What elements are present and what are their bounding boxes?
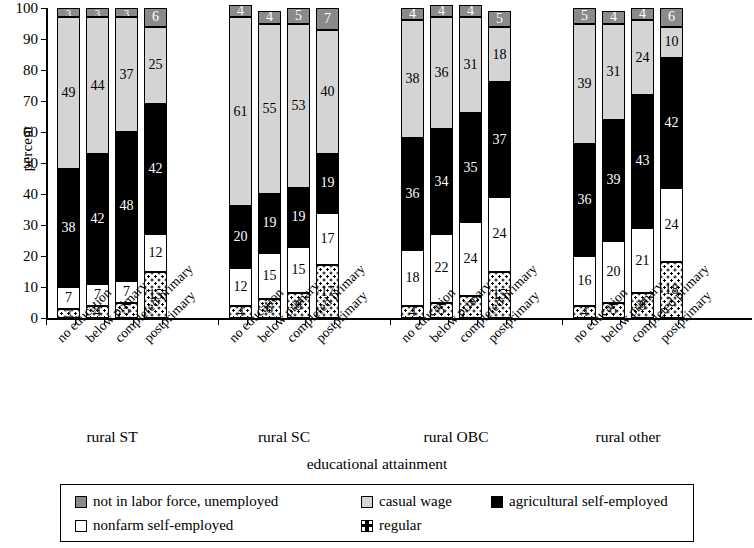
bar-segment-nilf[interactable]: 5 [488,11,511,27]
bar-segment-casual[interactable]: 10 [660,27,683,58]
bar-segment-casual[interactable]: 53 [287,24,310,188]
bar-segment-agri[interactable]: 36 [573,144,596,256]
bar-segment-nonfarm[interactable]: 7 [57,287,80,309]
bar-segment-nilf[interactable]: 4 [229,5,252,17]
bar-segment-agri[interactable]: 20 [229,206,252,268]
bar-segment-nilf[interactable]: 6 [660,8,683,27]
legend-item-casual[interactable]: casual wage [361,493,452,510]
legend-item-regular[interactable]: regular [361,517,421,534]
bar[interactable]: 3738493 [57,8,80,318]
bar-segment-casual[interactable]: 24 [631,20,654,94]
y-tick-label: 60 [4,127,38,137]
bar-segment-value: 3 [87,8,108,17]
bar-segment-casual[interactable]: 25 [144,27,167,105]
bar[interactable]: 81519535 [287,8,310,318]
bar-segment-nilf[interactable]: 7 [316,8,339,30]
bar-segment-agri[interactable]: 37 [488,82,511,197]
bar[interactable]: 41220614 [229,8,252,318]
bar-segment-value: 4 [259,11,280,23]
bar-segment-agri[interactable]: 43 [631,95,654,228]
bar-segment-value: 4 [230,5,251,17]
bar-segment-agri[interactable]: 38 [57,169,80,287]
y-tick-label: 30 [4,220,38,230]
bar-segment-value: 24 [489,227,510,241]
bar-segment-casual[interactable]: 44 [86,17,109,153]
bar-segment-value: 36 [402,187,423,201]
bar-segment-nonfarm[interactable]: 12 [144,234,167,271]
bar-segment-agri[interactable]: 34 [430,129,453,234]
bar[interactable]: 151242256 [144,8,167,318]
group-label: rural ST [42,428,182,446]
bar-segment-nilf[interactable]: 3 [115,8,138,17]
bar-segment-nilf[interactable]: 4 [631,8,654,20]
legend-item-label: agricultural self-employed [509,493,668,510]
bar[interactable]: 52039314 [602,8,625,318]
bar[interactable]: 82143244 [631,8,654,318]
bar-segment-nilf[interactable]: 3 [57,8,80,17]
bar-segment-casual[interactable]: 37 [115,17,138,132]
bar[interactable]: 182442106 [660,8,683,318]
legend-item-agri[interactable]: agricultural self-employed [491,493,668,510]
legend-item-nonfarm[interactable]: nonfarm self-employed [75,517,233,534]
bar-segment-value: 37 [489,133,510,147]
bar-segment-agri[interactable]: 19 [316,154,339,213]
bar-segment-casual[interactable]: 31 [602,24,625,120]
bar-segment-value: 38 [58,221,79,235]
bar-segment-agri[interactable]: 42 [86,154,109,284]
bar-segment-value: 5 [288,9,309,23]
bar-segment-nonfarm[interactable]: 12 [229,268,252,305]
bar-segment-nonfarm[interactable]: 16 [573,256,596,306]
bar-segment-nilf[interactable]: 5 [287,8,310,24]
bar-segment-nilf[interactable]: 4 [401,8,424,20]
bar-segment-agri[interactable]: 35 [459,113,482,222]
bar-segment-agri[interactable]: 42 [660,58,683,188]
bar-segment-nilf[interactable]: 4 [258,11,281,23]
bar-segment-casual[interactable]: 31 [459,17,482,113]
bar-segment-casual[interactable]: 40 [316,30,339,154]
bar-segment-casual[interactable]: 36 [430,17,453,129]
bar-segment-value: 5 [574,9,595,23]
bar-segment-agri[interactable]: 19 [287,188,310,247]
legend-item-nilf[interactable]: not in labor force, unemployed [75,493,278,510]
bar-segment-agri[interactable]: 19 [258,194,281,253]
bar-segment-agri[interactable]: 42 [144,104,167,234]
bar-segment-agri[interactable]: 36 [401,138,424,250]
bar-segment-nilf[interactable]: 4 [602,11,625,23]
bar-segment-casual[interactable]: 61 [229,17,252,206]
bar[interactable]: 41836384 [401,8,424,318]
bar-segment-casual[interactable]: 18 [488,27,511,83]
bar-segment-nilf[interactable]: 5 [573,8,596,24]
bar[interactable]: 72435314 [459,8,482,318]
bar-segment-nilf[interactable]: 6 [144,8,167,27]
bar-segment-casual[interactable]: 38 [401,20,424,138]
bar[interactable]: 61519554 [258,8,281,318]
bar-segment-casual[interactable]: 55 [258,24,281,195]
bar-segment-agri[interactable]: 48 [115,132,138,281]
bar-segment-nonfarm[interactable]: 24 [488,197,511,271]
bar-segment-value: 36 [431,66,452,80]
bar[interactable]: 152437185 [488,8,511,318]
x-tick-mark [390,319,391,325]
bar-segment-value: 16 [574,274,595,288]
bar-segment-nonfarm[interactable]: 24 [660,188,683,262]
bar[interactable]: 52234364 [430,8,453,318]
bar-segment-value: 40 [317,85,338,99]
bar-segment-value: 53 [288,99,309,113]
bar-segment-nonfarm[interactable]: 17 [316,213,339,266]
y-tick-label: 0 [4,313,38,323]
bar[interactable]: 5748373 [115,8,138,318]
bar-segment-nilf[interactable]: 3 [86,8,109,17]
bar-segment-value: 20 [230,230,251,244]
bar-segment-agri[interactable]: 39 [602,120,625,241]
bar[interactable]: 4742443 [86,8,109,318]
bar-segment-value: 6 [661,10,682,24]
bar[interactable]: 41636395 [573,8,596,318]
bar-segment-casual[interactable]: 39 [573,24,596,145]
bar-segment-nilf[interactable]: 4 [459,5,482,17]
bar-segment-nonfarm[interactable]: 18 [401,250,424,306]
bar-segment-value: 31 [603,65,624,79]
bar-segment-nilf[interactable]: 4 [430,5,453,17]
bar-segment-value: 25 [145,58,166,72]
bar-segment-casual[interactable]: 49 [57,17,80,169]
bar[interactable]: 171719407 [316,8,339,318]
